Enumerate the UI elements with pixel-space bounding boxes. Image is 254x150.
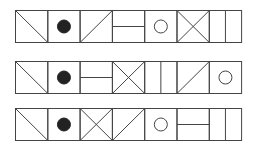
symbol-row-graphic [15, 108, 241, 141]
cell-filled-circle [48, 11, 80, 43]
diagonal-up-icon [112, 109, 144, 141]
cell-vertical-line [209, 11, 241, 43]
cell-x-cross [112, 62, 144, 94]
symbol-row-graphic [15, 61, 241, 94]
cell-x-cross [177, 11, 209, 43]
x-cross-icon [80, 109, 112, 141]
cell-diag-up [112, 109, 144, 141]
cell-hollow-circle [209, 62, 241, 94]
diagonal-down-icon [15, 109, 47, 141]
diagonal-up-icon [80, 11, 112, 43]
cell-horizontal-line [112, 11, 144, 43]
diagonal-up-icon [177, 62, 209, 94]
filled-circle-icon [57, 20, 70, 33]
cell-filled-circle [48, 109, 80, 141]
diagonal-down-icon [15, 11, 47, 43]
cell-filled-circle [48, 62, 80, 94]
cell-vertical-line [145, 62, 177, 94]
symbol-row-1 [15, 10, 241, 43]
hollow-circle-icon [154, 118, 167, 131]
filled-circle-icon [57, 118, 70, 131]
cell-x-cross [80, 109, 112, 141]
cell-diag-down [15, 11, 47, 43]
symbol-row-graphic [15, 10, 241, 43]
cell-horizontal-line [80, 62, 112, 94]
hollow-circle-icon [219, 71, 232, 84]
symbol-row-2 [15, 61, 241, 94]
cell-diag-down [15, 109, 47, 141]
cell-vertical-line [209, 109, 241, 141]
cell-hollow-circle [145, 11, 177, 43]
cell-hollow-circle [145, 109, 177, 141]
x-cross-icon [112, 62, 144, 94]
diagonal-down-icon [15, 62, 47, 94]
cell-border [145, 11, 177, 43]
cell-diag-down [15, 62, 47, 94]
cell-diag-up [80, 11, 112, 43]
symbol-row-3 [15, 108, 241, 141]
cell-horizontal-line [177, 109, 209, 141]
cell-border [145, 109, 177, 141]
cell-border [209, 62, 241, 94]
hollow-circle-icon [154, 20, 167, 33]
cell-diag-up [177, 62, 209, 94]
x-cross-icon [177, 11, 209, 43]
filled-circle-icon [57, 71, 70, 84]
